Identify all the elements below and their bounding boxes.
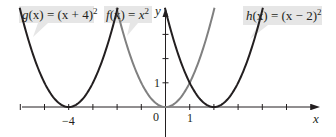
label-g: g(x) = (x + 4)2 (22, 6, 98, 22)
y-tick-label-1: 1 (154, 76, 160, 90)
x-tick-label-neg4: −4 (62, 114, 75, 128)
label-h: h(x) = (x − 2)2 (246, 7, 322, 23)
x-tick-label-0: 0 (153, 110, 159, 124)
x-tick-label-1: 1 (187, 111, 193, 125)
function-graph: −4 0 1 1 x y g(x) = (x + 4)2 f(x) = x2 h… (0, 0, 336, 137)
x-axis-arrow-icon (311, 104, 320, 110)
y-axis-label: y (153, 3, 161, 18)
x-axis-label: x (312, 111, 319, 126)
label-f: f(x) = x2 (106, 6, 149, 22)
